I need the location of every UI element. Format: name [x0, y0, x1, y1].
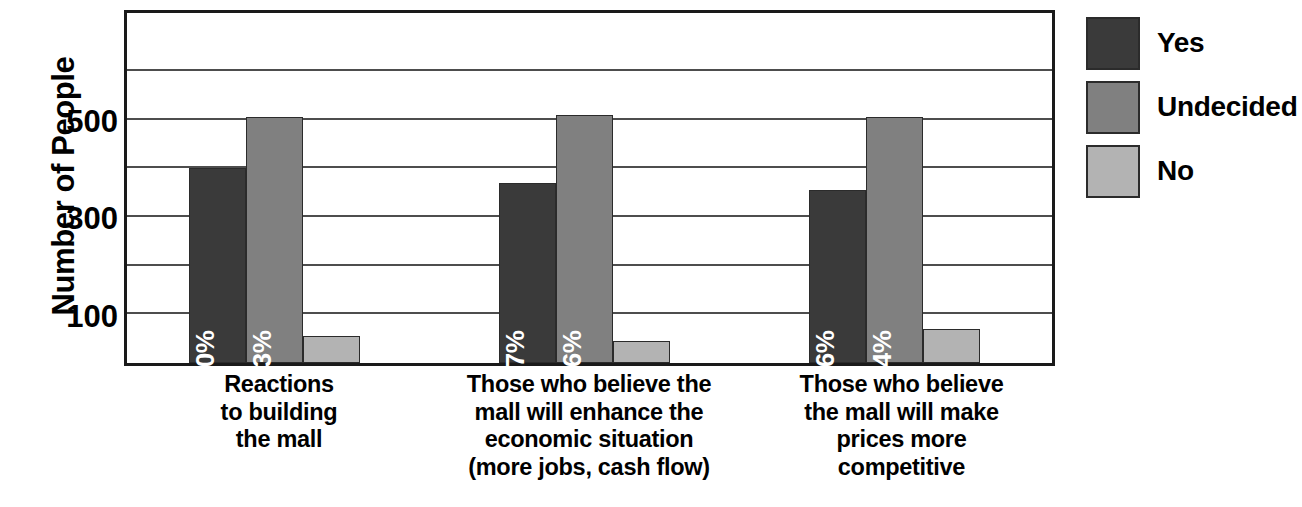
bar-group1-undecided[interactable]: 53% [246, 117, 303, 363]
bar-group-1: 40% 53% [127, 13, 437, 363]
category-3-line-4: competitive [749, 454, 1054, 482]
bar-group2-yes[interactable]: 37% [499, 183, 556, 363]
y-tick-300: 300 [22, 203, 118, 234]
category-3-line-2: the mall will make [749, 399, 1054, 427]
y-tick-500: 500 [22, 106, 118, 137]
bar-group3-no[interactable] [923, 329, 980, 363]
bar-group2-no[interactable] [613, 341, 670, 363]
y-axis-tick-labels: 500 300 100 [14, 0, 118, 507]
category-2-line-3: economic situation [429, 426, 749, 454]
bar-group-3: 36% 54% [747, 13, 1057, 363]
category-1-line-2: to building [124, 399, 434, 427]
category-label-1: Reactions to building the mall [124, 371, 434, 454]
legend-label-undecided: Undecided [1157, 91, 1297, 123]
legend-swatch-no [1086, 145, 1140, 198]
category-1-line-3: the mall [124, 426, 434, 454]
category-2-line-4: (more jobs, cash flow) [429, 454, 749, 482]
legend-label-yes: Yes [1157, 27, 1204, 59]
plot-area: 40% 53% 37% 56% 36% [124, 10, 1055, 366]
legend-label-no: No [1157, 155, 1194, 187]
category-label-3: Those who believe the mall will make pri… [749, 371, 1054, 481]
bar-group3-yes[interactable]: 36% [809, 190, 866, 363]
category-3-line-3: prices more [749, 426, 1054, 454]
bar-group1-yes[interactable]: 40% [189, 168, 246, 363]
bar-chart: Number of People 500 300 100 40% 53% [0, 0, 1302, 507]
category-label-2: Those who believe the mall will enhance … [429, 371, 749, 481]
bar-group2-undecided[interactable]: 56% [556, 115, 613, 363]
bar-group3-undecided[interactable]: 54% [866, 117, 923, 363]
x-axis-category-labels: Reactions to building the mall Those who… [124, 371, 1055, 507]
legend-swatch-yes [1086, 17, 1140, 70]
category-2-line-1: Those who believe the [429, 371, 749, 399]
plot-inner: 40% 53% 37% 56% 36% [127, 13, 1052, 363]
y-tick-100: 100 [22, 301, 118, 332]
bar-group1-no[interactable] [303, 336, 360, 363]
bar-group-2: 37% 56% [437, 13, 747, 363]
legend-swatch-undecided [1086, 81, 1140, 134]
category-3-line-1: Those who believe [749, 371, 1054, 399]
category-1-line-1: Reactions [124, 371, 434, 399]
category-2-line-2: mall will enhance the [429, 399, 749, 427]
